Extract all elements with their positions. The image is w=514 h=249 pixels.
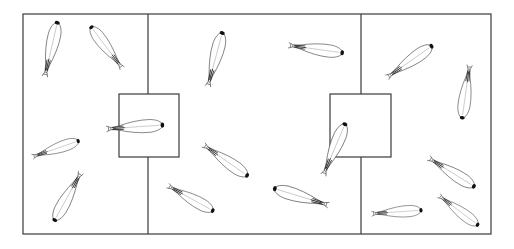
larva-icon (371, 204, 423, 219)
larva-figure (165, 180, 217, 216)
larva-icon (86, 22, 127, 72)
larva-figure (317, 120, 351, 178)
larva-figure (202, 30, 229, 88)
arena-diagram (0, 0, 514, 249)
larva-figure (425, 153, 478, 193)
larva-icon (435, 191, 482, 230)
larva-icon (202, 30, 229, 88)
larva-figure (271, 182, 330, 211)
larva-figure (200, 140, 252, 182)
larva-icon (271, 182, 330, 211)
arena-canvas (0, 0, 514, 249)
larva-icon (317, 120, 351, 178)
larva-icon (106, 118, 165, 135)
larva-icon (48, 169, 86, 224)
larva-figure (456, 64, 476, 120)
larva-icon (425, 153, 478, 193)
larva-figure (435, 191, 482, 230)
larva-icon (456, 64, 476, 120)
larva-figure (39, 20, 64, 79)
larva-figure (383, 40, 436, 82)
larva-icon (39, 20, 64, 79)
larva-figure (288, 39, 345, 59)
larva-icon (200, 140, 252, 182)
larvae-group (30, 20, 482, 231)
larva-figure (371, 204, 423, 219)
larva-icon (30, 135, 81, 162)
larva-icon (165, 180, 217, 216)
larva-icon (288, 39, 345, 59)
larva-figure (48, 169, 86, 224)
larva-figure (106, 118, 165, 135)
larva-figure (30, 135, 81, 162)
larva-figure (86, 22, 127, 72)
larva-icon (383, 40, 436, 82)
